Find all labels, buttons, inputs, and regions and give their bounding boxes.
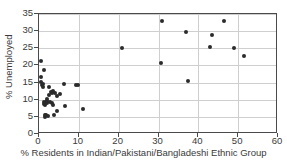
data-point	[62, 82, 66, 86]
x-tick-mark	[78, 133, 79, 137]
x-tick-label: 50	[225, 136, 249, 146]
data-point	[39, 75, 43, 79]
data-point	[232, 46, 236, 50]
x-tick-label: 60	[265, 136, 287, 146]
x-tick-label: 30	[146, 136, 170, 146]
gridline-horizontal	[39, 100, 276, 101]
y-axis-label: % Unemployed	[4, 12, 14, 122]
gridline-vertical	[198, 14, 199, 132]
gridline-horizontal	[39, 14, 276, 15]
scatter-chart: 051015202530350102030405060 % Residents …	[0, 0, 287, 163]
x-tick-mark	[237, 133, 238, 137]
plot-area	[38, 13, 277, 133]
y-tick-mark	[34, 82, 38, 83]
x-tick-mark	[38, 133, 39, 137]
data-point	[76, 83, 80, 87]
x-tick-label: 10	[66, 136, 90, 146]
y-tick-mark	[34, 116, 38, 117]
x-axis-label: % Residents in Indian/Pakistani/Banglade…	[0, 148, 287, 158]
y-tick-mark	[34, 47, 38, 48]
data-point	[184, 30, 188, 34]
gridline-vertical	[79, 14, 80, 132]
data-point	[81, 107, 85, 111]
y-tick-mark	[34, 99, 38, 100]
data-point	[242, 54, 246, 58]
data-point	[58, 92, 62, 96]
x-tick-mark	[118, 133, 119, 137]
data-point	[46, 114, 50, 118]
y-tick-mark	[34, 13, 38, 14]
data-point	[47, 85, 51, 89]
gridline-horizontal	[39, 48, 276, 49]
data-point	[41, 85, 45, 89]
x-tick-mark	[277, 133, 278, 137]
gridline-vertical	[159, 14, 160, 132]
data-point	[39, 59, 43, 63]
data-point	[120, 46, 124, 50]
data-point	[159, 61, 163, 65]
gridline-horizontal	[39, 117, 276, 118]
data-point	[210, 33, 214, 37]
y-axis-label-holder: % Unemployed	[0, 0, 14, 163]
data-point	[63, 104, 67, 108]
data-point	[55, 109, 59, 113]
gridline-vertical	[238, 14, 239, 132]
data-point	[222, 19, 226, 23]
data-point	[160, 19, 164, 23]
x-tick-label: 20	[106, 136, 130, 146]
data-point	[42, 68, 46, 72]
data-point	[51, 103, 55, 107]
x-tick-mark	[197, 133, 198, 137]
x-tick-label: 40	[185, 136, 209, 146]
y-tick-mark	[34, 64, 38, 65]
x-tick-label: 0	[26, 136, 50, 146]
x-tick-mark	[158, 133, 159, 137]
y-tick-mark	[34, 30, 38, 31]
gridline-horizontal	[39, 31, 276, 32]
gridline-horizontal	[39, 65, 276, 66]
data-point	[52, 113, 56, 117]
gridline-vertical	[119, 14, 120, 132]
